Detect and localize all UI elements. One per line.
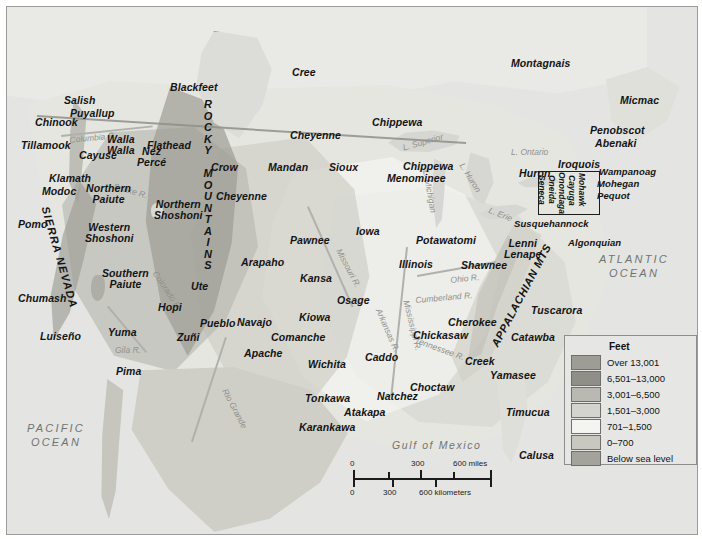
legend-label-over-13001: Over 13,001 — [607, 357, 659, 368]
tribe-label-wampanoag: Wampanoag — [599, 167, 656, 177]
tribe-label-comanche: Comanche — [271, 332, 325, 343]
tribe-label-montagnais: Montagnais — [511, 58, 570, 69]
legend-row-0-700: 0–700 — [571, 434, 690, 450]
legend-swatch-0-700 — [571, 435, 601, 450]
scale-axis-line — [353, 478, 492, 480]
legend-title: Feet — [609, 341, 690, 352]
scale-miles-tick-600: 600 miles — [453, 459, 487, 468]
tribe-label-blackfeet: Blackfeet — [170, 82, 218, 93]
legend-swatch-6501-13000 — [571, 371, 601, 386]
legend-swatch-below-sea-level — [571, 451, 601, 466]
iroquois-nation-onondaga: Onondaga — [557, 172, 567, 214]
tribe-label-catawba: Catawba — [511, 332, 555, 343]
tribe-label-iowa: Iowa — [356, 226, 380, 237]
tribe-label-menominee: Menominee — [387, 173, 446, 184]
tribe-label-tonkawa: Tonkawa — [305, 393, 350, 404]
label-gulf-of-mexico: Gulf of Mexico — [392, 439, 482, 452]
tribe-label-cheyenne-south: Cheyenne — [216, 191, 267, 202]
legend-swatch-1501-3000 — [571, 403, 601, 418]
legend-row-1501-3000: 1,501–3,000 — [571, 402, 690, 418]
legend-row-over-13001: Over 13,001 — [571, 354, 690, 370]
legend-label-701-1500: 701–1,500 — [607, 421, 652, 432]
tribe-label-crow: Crow — [211, 162, 238, 173]
tribe-label-penobscot: Penobscot — [590, 125, 645, 136]
scale-km-tick-mark-end — [490, 480, 492, 487]
legend-label-6501-13000: 6,501–13,000 — [607, 373, 665, 384]
label-gila-river: Gila R. — [115, 345, 141, 355]
tribe-label-modoc: Modoc — [42, 186, 76, 197]
tribe-label-pawnee: Pawnee — [290, 235, 330, 246]
rocky-letter-8: U — [201, 191, 215, 203]
tribe-label-klamath: Klamath — [49, 173, 91, 184]
rocky-letter-2: C — [201, 122, 215, 134]
scale-miles-tick-mark-600 — [490, 470, 492, 478]
pacific-ocean-line2: OCEAN — [31, 436, 81, 448]
tribe-label-tuscarora: Tuscarora — [531, 305, 582, 316]
legend-label-1501-3000: 1,501–3,000 — [607, 405, 660, 416]
tribe-label-sioux: Sioux — [329, 162, 358, 173]
scale-km-tick-0: 0 — [350, 488, 354, 497]
scale-miles-tick-mark-300 — [420, 470, 422, 478]
tribe-label-karankawa: Karankawa — [299, 422, 355, 433]
tribe-label-shawnee: Shawnee — [461, 260, 507, 271]
iroquois-nation-cayuga: Cayuga — [567, 175, 577, 206]
atlantic-ocean-line2: OCEAN — [609, 267, 659, 279]
tribe-label-pueblo: Pueblo — [200, 318, 236, 329]
tribe-label-puyallup: Puyallup — [70, 108, 115, 119]
tribe-label-calusa: Calusa — [519, 450, 554, 461]
tribe-label-pequot: Pequot — [597, 191, 630, 201]
tribe-label-zuni: Zuñi — [177, 332, 200, 343]
label-lake-ontario: L. Ontario — [511, 147, 548, 157]
scale-miles-tick-0: 0 — [350, 459, 354, 468]
northern-shoshoni-line2: Shoshoni — [154, 209, 203, 221]
label-atlantic-ocean: ATLANTIC OCEAN — [599, 253, 669, 281]
tribe-label-cherokee: Cherokee — [448, 317, 497, 328]
tribe-label-timucua: Timucua — [506, 407, 550, 418]
tribe-label-salish: Salish — [64, 95, 96, 106]
southern-paiute-line2: Paiute — [109, 278, 141, 290]
legend-row-below-sea-level: Below sea level — [571, 450, 690, 466]
scale-bar: 0 300 600 miles 0 300 600 kilometers — [349, 459, 499, 499]
legend-row-701-1500: 701–1,500 — [571, 418, 690, 434]
tribe-label-hopi: Hopi — [158, 302, 182, 313]
tribe-label-kiowa: Kiowa — [299, 312, 330, 323]
rocky-letter-4: Y — [201, 145, 215, 157]
tribe-label-luiseno: Luiseño — [40, 331, 81, 342]
tribe-label-osage: Osage — [337, 295, 370, 306]
tribe-label-chippewa-north: Chippewa — [372, 117, 422, 128]
tribe-label-cheyenne-north: Cheyenne — [290, 130, 341, 141]
legend-row-6501-13000: 6,501–13,000 — [571, 370, 690, 386]
tribe-label-pima: Pima — [116, 366, 142, 377]
scale-miles-tick-mark-0 — [353, 470, 355, 478]
tribe-label-northern-paiute: Northern Paiute — [86, 183, 131, 205]
tribe-label-wichita: Wichita — [308, 359, 346, 370]
scale-km-tick-300: 300 — [383, 488, 396, 497]
western-shoshoni-line2: Shoshoni — [85, 232, 134, 244]
iroquois-nation-seneca: Seneca — [537, 175, 547, 205]
tribe-label-tillamook: Tillamook — [21, 140, 71, 151]
legend-label-below-sea-level: Below sea level — [607, 453, 673, 464]
tribe-label-navajo: Navajo — [237, 317, 272, 328]
legend-swatch-701-1500 — [571, 419, 601, 434]
legend-row-3001-6500: 3,001–6,500 — [571, 386, 690, 402]
elevation-legend: Feet Over 13,001 6,501–13,000 3,001–6,50… — [564, 335, 697, 465]
legend-swatch-3001-6500 — [571, 387, 601, 402]
tribe-label-choctaw: Choctaw — [410, 382, 454, 393]
label-pacific-ocean: PACIFIC OCEAN — [27, 422, 85, 450]
tribe-label-western-shoshoni: Western Shoshoni — [85, 222, 134, 244]
rocky-letter-12: I — [201, 237, 215, 249]
northern-paiute-line2: Paiute — [93, 193, 125, 205]
legend-label-3001-6500: 3,001–6,500 — [607, 389, 660, 400]
iroquois-nation-mohawk: Mohawk — [577, 173, 587, 207]
rocky-letter-0: R — [201, 99, 215, 111]
tribe-label-chippewa-south: Chippewa — [403, 161, 453, 172]
tribe-label-yuma: Yuma — [108, 327, 137, 338]
iroquois-nation-oneida: Oneida — [547, 175, 557, 204]
tribe-label-yamasee: Yamasee — [490, 370, 536, 381]
nez-perce-line2: Percé — [137, 156, 166, 168]
scale-miles-tick-300: 300 — [411, 459, 424, 468]
pacific-ocean-line1: PACIFIC — [27, 422, 85, 434]
tribe-label-ute: Ute — [191, 281, 208, 292]
tribe-label-iroquois: Iroquois — [558, 159, 600, 170]
tribe-label-lenni-lenape: Lenni Lenape — [504, 238, 541, 260]
